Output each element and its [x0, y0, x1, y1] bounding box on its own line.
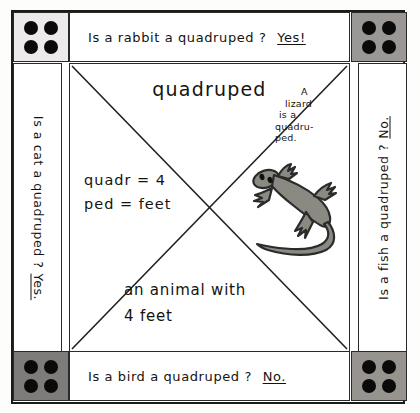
dice-pip: [362, 40, 376, 54]
example-note-line-4: quadru-: [275, 121, 339, 133]
right-question-text: Is a fish a quadruped ? No.: [375, 116, 390, 300]
definition-line-2: 4 feet: [124, 303, 349, 329]
dice-pip: [24, 360, 38, 374]
dice-pip: [362, 360, 376, 374]
dice-pip: [382, 40, 396, 54]
lizard-icon: [248, 162, 350, 274]
top-question-text: Is a rabbit a quadruped ? Yes!: [70, 30, 306, 45]
left-question-text: Is a cat a quadruped ? Yes.: [30, 115, 45, 299]
bottom-question-text: Is a bird a quadruped ? No.: [70, 369, 286, 384]
dice-pip: [44, 21, 58, 35]
corner-dice-top-left: [13, 12, 69, 62]
dice-pip: [24, 379, 38, 393]
right-question-answer: No.: [375, 116, 390, 139]
definition-line-1: an animal with: [124, 277, 349, 303]
dice-pip: [382, 379, 396, 393]
bottom-question-label: Is a bird a quadruped ?: [88, 369, 252, 384]
top-question-label: Is a rabbit a quadruped ?: [88, 30, 266, 45]
example-note-line-2: lizard: [275, 98, 339, 110]
right-question-banner: Is a fish a quadruped ? No.: [358, 63, 407, 352]
right-question-label: Is a fish a quadruped ?: [375, 143, 390, 299]
frayer-model-worksheet: Is a rabbit a quadruped ? Yes! Is a bird…: [0, 0, 420, 413]
dice-pip: [44, 360, 58, 374]
left-question-banner: Is a cat a quadruped ? Yes.: [13, 63, 62, 352]
dice-pip: [362, 21, 376, 35]
word-parts-block: quadr = 4 ped = feet: [84, 168, 171, 216]
dice-pip: [362, 379, 376, 393]
left-question-answer: Yes.: [30, 273, 45, 300]
example-note-line-5: ped.: [275, 132, 339, 144]
corner-dice-bottom-right: [351, 351, 407, 401]
example-note-line-3: is a: [275, 109, 339, 121]
bottom-question-answer: No.: [263, 369, 286, 384]
left-question-label: Is a cat a quadruped ?: [30, 115, 45, 268]
dice-pip: [24, 40, 38, 54]
corner-dice-bottom-left: [13, 351, 69, 401]
top-question-banner: Is a rabbit a quadruped ? Yes!: [69, 12, 350, 62]
corner-dice-top-right: [351, 12, 407, 62]
word-part-line-1: quadr = 4: [84, 168, 171, 192]
dice-pip: [24, 21, 38, 35]
example-note-block: A lizard is a quadru- ped.: [275, 86, 339, 144]
definition-block: an animal with 4 feet: [70, 277, 349, 329]
bottom-question-banner: Is a bird a quadruped ? No.: [69, 351, 350, 401]
dice-pip: [382, 360, 396, 374]
dice-pip: [44, 40, 58, 54]
word-part-line-2: ped = feet: [84, 192, 171, 216]
top-question-answer: Yes!: [277, 30, 306, 45]
center-definition-box: quadruped quadr = 4 ped = feet an animal…: [69, 63, 350, 352]
example-note-line-1: A: [275, 86, 339, 98]
dice-pip: [382, 21, 396, 35]
dice-pip: [44, 379, 58, 393]
